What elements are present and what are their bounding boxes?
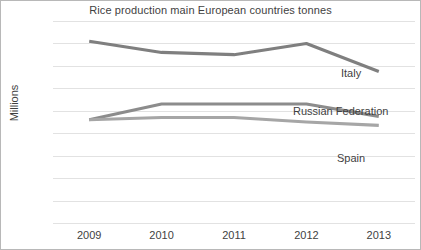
x-axis-tick-label: 2010	[135, 229, 189, 241]
x-axis-tick-label: 2012	[279, 229, 333, 241]
series-label-spain: Spain	[337, 152, 365, 164]
gridline	[53, 223, 415, 224]
chart-title: Rice production main European countries …	[1, 4, 420, 16]
series-label-italy: Italy	[341, 67, 361, 79]
plot-area: 00.20.40.60.811.21.41.61.8 2009201020112…	[53, 21, 415, 223]
x-axis-tick-label: 2013	[352, 229, 406, 241]
x-axis-tick-label: 2011	[207, 229, 261, 241]
line-chart: Rice production main European countries …	[0, 0, 421, 250]
series-lines	[53, 21, 415, 223]
y-axis-title: Millions	[8, 68, 20, 138]
series-line-spain	[89, 118, 379, 126]
series-label-russian-federation: Russian Federation	[293, 105, 388, 117]
series-line-italy	[89, 41, 379, 71]
x-axis-tick-label: 2009	[62, 229, 116, 241]
